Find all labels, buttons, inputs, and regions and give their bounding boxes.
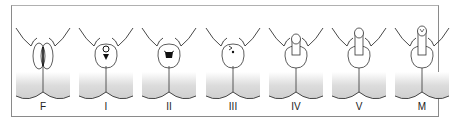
left-groin-line <box>206 28 227 46</box>
stage-figure-I: I <box>79 28 133 112</box>
stage-figure-V: V <box>332 28 386 112</box>
left-groin-line <box>269 28 290 46</box>
stage-figure-II: II <box>142 28 196 112</box>
right-groin-line <box>49 28 70 46</box>
left-groin-line <box>395 28 416 46</box>
stage-label: I <box>105 101 108 112</box>
stage-label: III <box>229 101 237 112</box>
left-groin-line <box>16 28 37 46</box>
left-groin-line <box>332 28 353 46</box>
left-groin-line <box>79 28 100 46</box>
prader-diagram: FIIIIIIIVVM <box>0 0 451 126</box>
stage-figure-III: III <box>206 28 260 112</box>
urethral-opening <box>232 51 234 53</box>
stage-figure-IV: IV <box>269 28 323 112</box>
left-groin-line <box>142 28 163 46</box>
stage-label: V <box>356 101 363 112</box>
phallus-tip <box>229 46 232 50</box>
stage-label: F <box>40 101 46 112</box>
right-groin-line <box>428 28 449 46</box>
right-groin-line <box>175 28 196 46</box>
stage-label: IV <box>291 101 301 112</box>
stage-figure-F: F <box>16 28 70 112</box>
right-groin-line <box>302 28 323 46</box>
glans <box>355 28 364 38</box>
glans <box>418 26 427 36</box>
labioscrotal-folds <box>222 44 244 68</box>
right-groin-line <box>365 28 386 46</box>
introitus <box>103 54 109 60</box>
stage-label: M <box>418 101 426 112</box>
right-groin-line <box>112 28 133 46</box>
stage-figure-M: M <box>395 26 449 112</box>
glans <box>292 34 301 44</box>
clitoris <box>103 46 109 52</box>
stage-label: II <box>166 101 172 112</box>
right-groin-line <box>239 28 260 46</box>
